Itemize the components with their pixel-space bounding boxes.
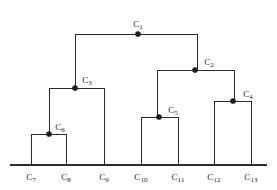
leaf-label-subscript: 7 <box>32 176 36 184</box>
node-label-subscript: 1 <box>139 23 143 31</box>
node-label-c5: C5 <box>168 105 178 117</box>
node-label-c3: C3 <box>82 75 92 87</box>
node-label-c2: C2 <box>204 57 214 69</box>
node-label-subscript: 6 <box>61 126 65 134</box>
node-label-subscript: 4 <box>249 93 253 101</box>
leaf-label-subscript: 12 <box>213 176 221 184</box>
dendrogram-canvas: C1C2C3C4C5C6C7C8C9C10C11C12C13 <box>0 0 277 190</box>
leaf-label-c7: C7 <box>26 172 36 184</box>
leaf-label-subscript: 11 <box>178 176 185 184</box>
leaf-label-subscript: 9 <box>105 176 109 184</box>
tree-link-layer <box>31 34 251 165</box>
node-label-subscript: 2 <box>210 61 214 69</box>
node-dot-c4[interactable] <box>230 98 235 103</box>
node-label-c6: C6 <box>55 122 65 134</box>
node-label-subscript: 3 <box>88 79 92 87</box>
leaf-label-c13: C13 <box>244 172 258 184</box>
leaf-label-subscript: 8 <box>67 176 71 184</box>
node-dot-c5[interactable] <box>156 114 161 119</box>
leaf-label-c12: C12 <box>207 172 221 184</box>
node-dot-c1[interactable] <box>135 31 140 36</box>
leaf-label-subscript: 13 <box>250 176 258 184</box>
dendrogram-figure: C1C2C3C4C5C6C7C8C9C10C11C12C13 <box>0 0 277 190</box>
leaf-label-c9: C9 <box>99 172 109 184</box>
node-dot-c2[interactable] <box>192 67 197 72</box>
node-dot-c3[interactable] <box>72 85 77 90</box>
leaf-label-c11: C11 <box>171 172 184 184</box>
node-label-subscript: 5 <box>174 109 178 117</box>
node-label-c4: C4 <box>243 89 253 101</box>
node-label-c1: C1 <box>133 19 143 31</box>
leaf-label-c8: C8 <box>61 172 71 184</box>
leaf-label-subscript: 10 <box>140 176 148 184</box>
node-dot-c6[interactable] <box>46 131 51 136</box>
leaf-label-c10: C10 <box>134 172 148 184</box>
